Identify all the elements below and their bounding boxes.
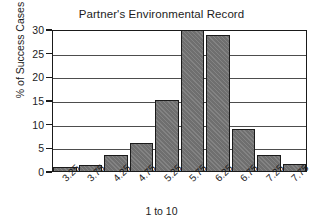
y-tick-label: 30 xyxy=(32,25,44,35)
y-tick-label: 15 xyxy=(32,96,44,106)
bar xyxy=(206,35,230,172)
y-axis-title: % of Success Cases xyxy=(14,0,26,121)
x-axis-title: 1 to 10 xyxy=(0,205,323,217)
y-tick-label: 25 xyxy=(32,49,44,59)
y-tick-label: 0 xyxy=(38,167,44,177)
y-tick-label: 10 xyxy=(32,120,44,130)
bar xyxy=(181,30,205,172)
y-tick-label: 5 xyxy=(38,143,44,153)
bar-chart: Partner's Environmental Record 051015202… xyxy=(0,0,323,224)
y-tick-label: 20 xyxy=(32,72,44,82)
bars-layer xyxy=(52,30,307,172)
y-axis: 051015202530 xyxy=(0,0,52,224)
